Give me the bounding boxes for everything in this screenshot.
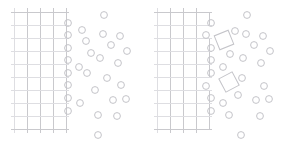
- solution-particle: [238, 132, 245, 139]
- solution-particle: [261, 83, 268, 90]
- solution-particle: [104, 75, 111, 82]
- dissolution-figure: [0, 0, 285, 150]
- solution-particle: [235, 92, 242, 99]
- solution-particle: [84, 70, 91, 77]
- solution-particle-group-right: [203, 12, 274, 139]
- solution-particle: [79, 27, 86, 34]
- solution-particle: [232, 28, 239, 35]
- solution-particle: [260, 33, 267, 40]
- solution-particle: [266, 96, 273, 103]
- solution-particle: [124, 48, 131, 55]
- solution-particle-group-left: [65, 12, 131, 139]
- solution-particle: [239, 75, 246, 82]
- panel-left-canvas: [0, 0, 142, 150]
- solution-particle: [118, 82, 125, 89]
- solution-particle: [97, 55, 104, 62]
- intact-crystal-panel: [0, 0, 142, 150]
- crystal-lattice-intact: [11, 8, 69, 133]
- solution-particle: [88, 50, 95, 57]
- solution-particle: [220, 64, 227, 71]
- dissolving-crystal-panel: [143, 0, 285, 150]
- solution-particle: [95, 112, 102, 119]
- detached-unit-cell-group: [214, 30, 239, 92]
- solution-particle: [251, 42, 258, 49]
- solution-particle: [267, 48, 274, 55]
- solution-particle: [203, 32, 210, 39]
- solution-particle: [220, 100, 227, 107]
- panel-right-canvas: [143, 0, 285, 150]
- solution-particle: [117, 33, 124, 40]
- crystal-lattice-dissolving: [154, 8, 212, 133]
- solution-particle: [253, 97, 260, 104]
- solution-particle: [100, 31, 107, 38]
- solution-particle: [115, 60, 122, 67]
- solution-particle: [95, 132, 102, 139]
- detached-unit-cell-upper: [214, 30, 234, 50]
- solution-particle: [76, 64, 83, 71]
- solution-particle: [258, 60, 265, 67]
- solution-particle: [240, 55, 247, 62]
- solution-particle: [227, 51, 234, 58]
- solution-particle: [244, 12, 251, 19]
- solution-particle: [226, 112, 233, 119]
- solution-particle: [83, 38, 90, 45]
- solution-particle: [108, 42, 115, 49]
- detached-unit-cell-lower: [219, 72, 239, 92]
- solution-particle: [123, 96, 130, 103]
- solution-particle: [257, 113, 264, 120]
- solution-particle: [101, 12, 108, 19]
- solution-particle: [110, 97, 117, 104]
- solution-particle: [77, 100, 84, 107]
- solution-particle: [114, 113, 121, 120]
- solution-particle: [243, 31, 250, 38]
- solution-particle: [203, 83, 210, 90]
- solution-particle: [92, 87, 99, 94]
